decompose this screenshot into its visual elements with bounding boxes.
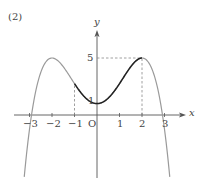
x-tick-label--2: −2 xyxy=(46,119,61,129)
y-tick-label-5: 5 xyxy=(87,53,93,63)
panel-label: (2) xyxy=(8,12,22,22)
x-tick-label--3: −3 xyxy=(23,119,38,129)
function-graph xyxy=(0,0,205,181)
dashed-guides xyxy=(75,58,143,115)
y-axis-label: y xyxy=(94,17,100,27)
x-tick-label--1: −1 xyxy=(68,119,83,129)
x-tick-label-3: 3 xyxy=(162,119,168,129)
x-axis-label: x xyxy=(189,108,195,118)
axes xyxy=(14,36,180,178)
y-axis-arrow-icon xyxy=(95,30,100,37)
y-tick-label-1: 1 xyxy=(88,96,94,106)
x-tick-label-1: 1 xyxy=(117,119,123,129)
highlighted-curve-segment xyxy=(75,58,143,104)
x-axis-arrow-icon xyxy=(179,113,186,118)
origin-label: O xyxy=(88,119,96,129)
x-tick-label-2: 2 xyxy=(139,119,145,129)
